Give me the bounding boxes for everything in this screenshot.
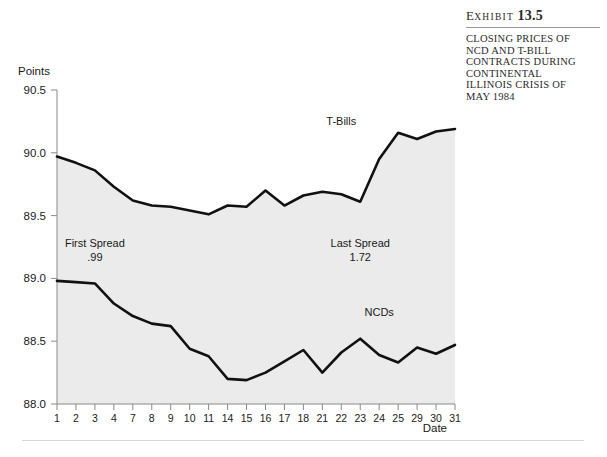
x-axis-tick-label: 14 <box>222 412 234 424</box>
x-axis-tick-label: 10 <box>184 412 196 424</box>
exhibit-header: EXHIBIT 13.5 CLOSING PRICES OF NCD AND T… <box>466 8 600 103</box>
exhibit-title: EXHIBIT 13.5 <box>466 8 600 24</box>
footer-divider <box>22 440 584 441</box>
line-chart: 88.088.589.089.590.090.5 123478910111415… <box>0 0 470 440</box>
caption-line: MAY 1984 <box>466 91 600 103</box>
x-axis-tick-label: 11 <box>203 412 214 424</box>
x-axis-tick-label: 16 <box>260 412 272 424</box>
annotation-title-last-spread: Last Spread <box>331 237 390 249</box>
series-label-t-bills: T-Bills <box>326 115 356 127</box>
x-axis-tick-label: 29 <box>411 412 423 424</box>
x-axis-tick-label: 2 <box>73 412 79 424</box>
annotation-value-last-spread: 1.72 <box>350 251 371 263</box>
x-axis-tick-label: 18 <box>298 412 310 424</box>
x-axis-tick-label: 23 <box>354 412 366 424</box>
x-axis-tick-label: 17 <box>279 412 291 424</box>
caption-line: CONTINENTAL <box>466 68 600 80</box>
chart-canvas: 88.088.589.089.590.090.5 123478910111415… <box>0 0 470 440</box>
x-axis-tick-label: 1 <box>54 412 60 424</box>
exhibit-number: 13.5 <box>518 8 543 23</box>
x-axis-tick-label: 9 <box>168 412 174 424</box>
x-axis-tick-label: 8 <box>149 412 155 424</box>
x-axis-tick-label: 22 <box>335 412 347 424</box>
exhibit-divider <box>466 27 600 28</box>
x-axis-tick-label: 25 <box>392 412 404 424</box>
y-axis-title: Points <box>18 65 50 77</box>
x-axis-tick-label: 4 <box>111 412 117 424</box>
annotation-title-first-spread: First Spread <box>65 237 125 249</box>
caption-line: CLOSING PRICES OF <box>466 33 600 45</box>
y-axis-tick-label: 89.0 <box>24 272 46 284</box>
y-axis-tick-label: 90.5 <box>24 84 46 96</box>
x-axis-title: Date <box>423 422 447 434</box>
x-axis-tick-label: 15 <box>241 412 253 424</box>
y-axis-tick-label: 88.0 <box>24 398 46 410</box>
annotation-value-first-spread: .99 <box>87 251 102 263</box>
x-axis-tick-label: 24 <box>373 412 385 424</box>
caption-line: CONTRACTS DURING <box>466 56 600 68</box>
x-axis-tick-label: 31 <box>449 412 461 424</box>
caption-line: NCD AND T-BILL <box>466 45 600 57</box>
y-axis-tick-label: 89.5 <box>24 210 46 222</box>
x-axis-tick-label: 3 <box>92 412 98 424</box>
y-axis: 88.088.589.089.590.090.5 <box>24 84 57 410</box>
y-axis-tick-label: 90.0 <box>24 147 46 159</box>
y-axis-tick-label: 88.5 <box>24 335 46 347</box>
x-axis-tick-label: 7 <box>130 412 136 424</box>
series-label-ncds: NCDs <box>365 306 395 318</box>
exhibit-caption: CLOSING PRICES OF NCD AND T-BILL CONTRAC… <box>466 33 600 103</box>
caption-line: ILLINOIS CRISIS OF <box>466 79 600 91</box>
x-axis: 1234789101114151617182122232425293031 <box>54 404 461 424</box>
exhibit-label-rest: XHIBIT <box>474 12 514 22</box>
x-axis-tick-label: 21 <box>316 412 328 424</box>
